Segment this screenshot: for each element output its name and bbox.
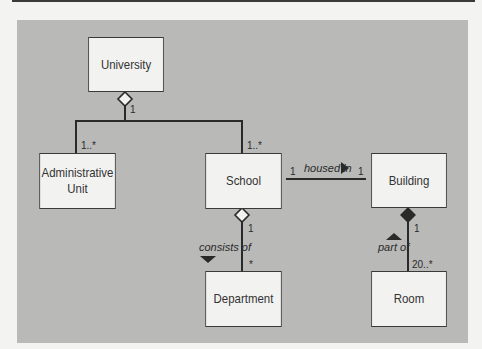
class-name-line1: Administrative [42, 165, 114, 181]
multiplicity-university: 1 [130, 104, 136, 115]
multiplicity-building-comp: 1 [414, 223, 420, 234]
class-room[interactable]: Room [371, 271, 447, 327]
association-consists-of: consists of [199, 241, 251, 253]
class-building[interactable]: Building [371, 153, 447, 208]
association-housed-in: housed in [304, 162, 352, 174]
multiplicity-housed-school: 1 [290, 166, 296, 177]
class-university[interactable]: University [88, 37, 164, 92]
multiplicity-department: * [249, 259, 253, 270]
direction-up-triangle-icon [386, 233, 402, 240]
class-name: Room [394, 291, 425, 307]
class-name: Building [389, 173, 430, 189]
multiplicity-housed-building: 1 [358, 166, 364, 177]
class-department[interactable]: Department [205, 271, 282, 327]
class-administrative-unit[interactable]: Administrative Unit [39, 153, 116, 209]
aggregation-diamond-icon [235, 208, 249, 222]
class-name: University [101, 57, 151, 73]
multiplicity-school-univ: 1..* [247, 140, 262, 151]
multiplicity-school-agg: 1 [248, 223, 254, 234]
composition-diamond-icon [401, 208, 415, 222]
multiplicity-room: 20..* [412, 259, 433, 270]
class-name-line2: Unit [67, 181, 87, 197]
class-name: Department [214, 291, 274, 307]
multiplicity-admin: 1..* [81, 140, 96, 151]
association-part-of: part of [378, 241, 409, 253]
class-school[interactable]: School [205, 153, 282, 209]
class-name: School [226, 173, 261, 189]
direction-down-triangle-icon [200, 256, 216, 263]
